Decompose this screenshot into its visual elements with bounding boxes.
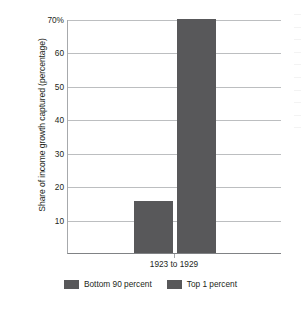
legend-label: Top 1 percent bbox=[187, 279, 237, 289]
page-text-line bbox=[294, 27, 301, 40]
y-axis-tick-label: 70% bbox=[47, 15, 64, 25]
y-axis-tick-label: 30 bbox=[55, 149, 64, 159]
legend-item: Bottom 90 percent bbox=[64, 279, 152, 289]
page-text-line bbox=[294, 77, 301, 90]
legend-label: Bottom 90 percent bbox=[84, 279, 152, 289]
y-axis-tick-label: 60 bbox=[55, 48, 64, 58]
page-text-line bbox=[294, 39, 301, 52]
page-text-line bbox=[294, 52, 301, 65]
x-axis-tick-mark bbox=[174, 254, 175, 258]
legend-swatch bbox=[64, 280, 79, 289]
page-text-line bbox=[294, 115, 301, 128]
page-text-line bbox=[294, 102, 301, 115]
y-axis-title: Share of income growth captured (percent… bbox=[37, 5, 47, 245]
y-axis-tick-label: 10 bbox=[55, 216, 64, 226]
page-text-line bbox=[294, 90, 301, 103]
legend-item: Top 1 percent bbox=[167, 279, 237, 289]
y-axis-tick-label: 20 bbox=[55, 182, 64, 192]
bar-chart-figure: Share of income growth captured (percent… bbox=[0, 0, 301, 312]
plot-area: 70%605040302010 bbox=[67, 20, 281, 254]
y-axis-tick-label: 50 bbox=[55, 82, 64, 92]
chart-legend: Bottom 90 percentTop 1 percent bbox=[0, 279, 301, 289]
bar bbox=[177, 19, 216, 253]
page-text-line bbox=[294, 14, 301, 27]
legend-swatch bbox=[167, 280, 182, 289]
bars-layer bbox=[68, 20, 281, 253]
y-axis-tick-label: 40 bbox=[55, 115, 64, 125]
adjacent-page-text-column bbox=[294, 14, 301, 246]
bar bbox=[134, 201, 173, 253]
x-axis-tick-label: 1923 to 1929 bbox=[150, 259, 198, 269]
page-text-line bbox=[294, 64, 301, 77]
page-text-line bbox=[294, 127, 301, 140]
